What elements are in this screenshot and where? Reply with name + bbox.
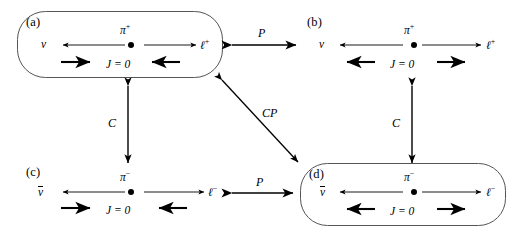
panel-c-tag: (c) — [26, 165, 40, 180]
transformation-label-cp-diagonal: CP — [262, 106, 277, 121]
transformation-label-c-left: C — [108, 116, 116, 131]
panel-d-meson-dot — [411, 189, 417, 195]
figure-canvas: (a) ν π+ ℓ+ J = 0 (b) ν π+ ℓ+ J = 0 (c) … — [0, 0, 517, 233]
transformation-label-c-right: C — [392, 116, 400, 131]
panel-b-left-particle: ν — [319, 39, 324, 51]
panel-c-left-particle: ν — [38, 186, 43, 199]
panel-b-tag: (b) — [307, 15, 322, 30]
panel-b-spin-label: J = 0 — [390, 58, 414, 70]
panel-a-left-particle: ν — [41, 39, 46, 51]
panel-a-right-particle: ℓ+ — [200, 38, 209, 51]
panel-c-meson-dot — [128, 189, 134, 195]
transformation-arrow-cp-diagonal — [222, 80, 298, 162]
panel-a-meson-label: π+ — [120, 23, 130, 36]
panel-c-spin-label: J = 0 — [106, 204, 130, 216]
transformation-label-p-bottom: P — [256, 175, 263, 190]
panel-c-right-particle: ℓ− — [208, 185, 217, 198]
transformation-label-p-top: P — [258, 26, 265, 41]
panel-b-meson-dot — [411, 42, 417, 48]
panel-d-left-particle: ν — [320, 186, 325, 199]
panel-b-right-particle: ℓ+ — [486, 38, 495, 51]
panel-a-spin-label: J = 0 — [106, 58, 130, 70]
panel-c-meson-label: π− — [120, 170, 130, 183]
panel-d-meson-label: π− — [404, 170, 414, 183]
panel-d-tag: (d) — [309, 167, 324, 182]
panel-d-right-particle: ℓ− — [486, 185, 495, 198]
panel-b-meson-label: π+ — [404, 23, 414, 36]
panel-a-tag: (a) — [26, 15, 40, 30]
panel-a-meson-dot — [128, 42, 134, 48]
panel-d-spin-label: J = 0 — [390, 205, 414, 217]
